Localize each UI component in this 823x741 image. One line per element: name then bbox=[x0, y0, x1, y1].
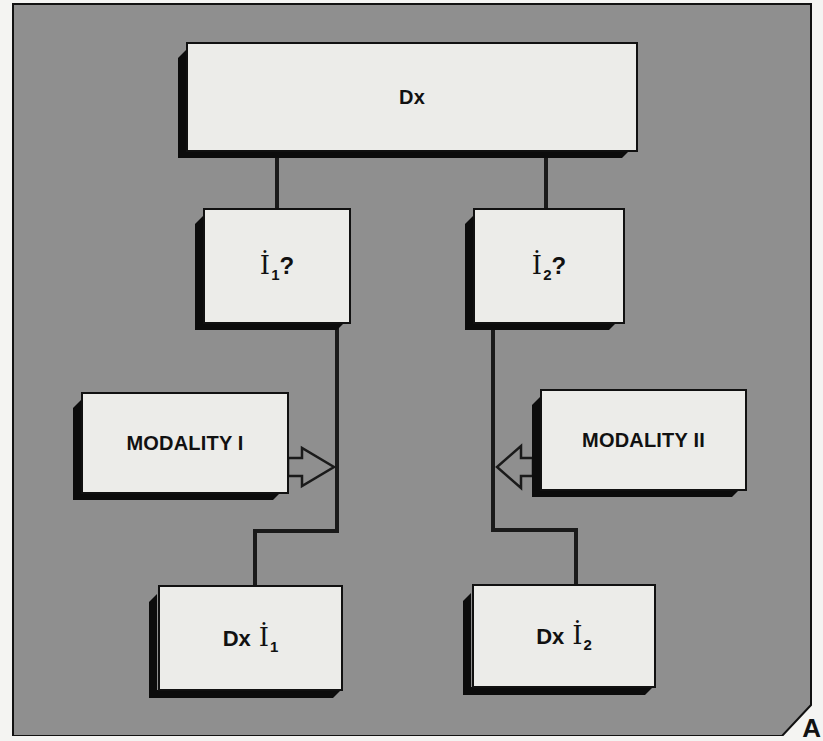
result-1-node: Dxİ1 bbox=[158, 585, 343, 691]
question-2-node: İ2? bbox=[473, 208, 625, 324]
modality-2-node: MODALITY II bbox=[540, 389, 747, 491]
question-1-node: İ1? bbox=[203, 208, 351, 324]
question-1-label: İ1? bbox=[260, 250, 294, 283]
modality-1-label: MODALITY I bbox=[126, 432, 243, 455]
modality-1-node: MODALITY I bbox=[81, 392, 289, 494]
figure-panel-label: A bbox=[802, 713, 821, 741]
question-2-label: İ2? bbox=[532, 250, 566, 283]
modality-2-label: MODALITY II bbox=[582, 429, 705, 452]
result-2-node: Dxİ2 bbox=[472, 584, 656, 688]
result-1-label: Dxİ1 bbox=[223, 622, 279, 655]
root-node: Dx bbox=[186, 42, 638, 152]
root-label: Dx bbox=[399, 86, 425, 109]
result-2-label: Dxİ2 bbox=[536, 620, 592, 653]
